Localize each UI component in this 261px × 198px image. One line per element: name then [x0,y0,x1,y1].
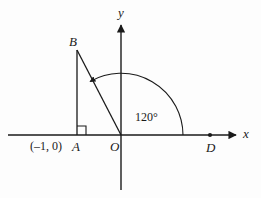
origin-label: O [110,140,119,153]
diagram-canvas [0,0,261,198]
x-axis-label: x [243,127,249,140]
point-label-a: A [72,140,80,153]
angle-measure-label: 120° [135,111,158,123]
point-d-dot [208,133,212,137]
segment-ob [77,50,121,135]
coordinate-label: (–1, 0) [30,140,62,152]
y-axis-label: y [118,6,124,19]
point-label-b: B [69,35,77,48]
right-angle-marker [77,126,86,135]
geometry-diagram: y x B A O D (–1, 0) 120° [0,0,261,198]
point-label-d: D [206,141,215,154]
